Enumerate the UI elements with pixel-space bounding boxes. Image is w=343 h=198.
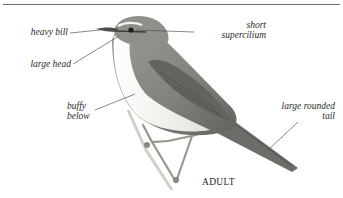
label-short-supercilium: short supercilium <box>196 20 266 40</box>
label-line: large rounded <box>255 101 335 111</box>
label-large-head: large head <box>8 59 71 69</box>
figure-caption: ADULT <box>202 177 235 187</box>
label-large-rounded-tail: large rounded tail <box>255 101 335 121</box>
label-line: buffy <box>67 101 107 111</box>
label-buffy-below: buffy below <box>67 101 107 121</box>
label-line: supercilium <box>196 30 266 40</box>
label-line: tail <box>255 111 335 121</box>
label-line: short <box>196 20 266 30</box>
label-line: below <box>67 111 107 121</box>
eye <box>128 27 133 32</box>
label-heavy-bill: heavy bill <box>8 27 68 37</box>
